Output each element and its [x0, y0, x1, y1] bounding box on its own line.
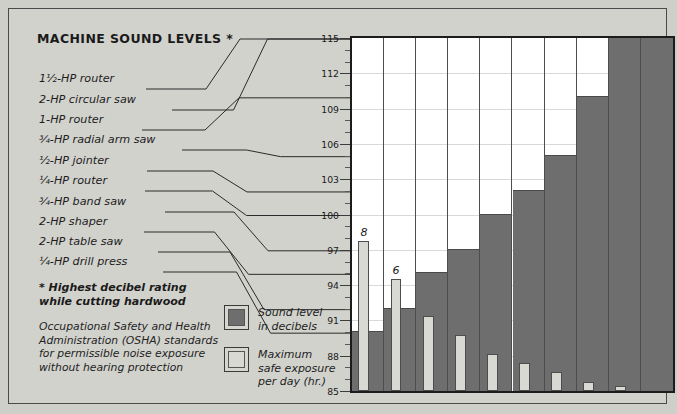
machine-label: ¼-HP drill press — [39, 255, 127, 268]
machine-label: 1-HP router — [39, 113, 103, 126]
y-tick-label: 91 — [327, 315, 339, 326]
plot-area: 864321½1½¼ — [350, 36, 675, 393]
machine-label: ½-HP jointer — [39, 154, 109, 167]
y-tick-label: 97 — [327, 244, 339, 255]
decibel-bar[interactable] — [577, 96, 608, 391]
decibel-bar[interactable] — [609, 37, 640, 391]
bar-group[interactable] — [352, 38, 384, 391]
decibel-bar[interactable] — [641, 37, 673, 391]
y-tick-label: 94 — [327, 280, 339, 291]
osha-note: Occupational Safety and Health Administr… — [39, 320, 225, 374]
footnote-text: * Highest decibel rating while cutting h… — [39, 281, 219, 309]
chart-page: MACHINE SOUND LEVELS * 1½-HP router2-HP … — [0, 0, 677, 414]
page-title: MACHINE SOUND LEVELS * — [37, 31, 233, 46]
machine-label: 2-HP circular saw — [39, 93, 136, 106]
y-tick-label: 112 — [321, 68, 339, 79]
exposure-bar[interactable] — [391, 279, 402, 392]
legend-swatch-safe-exposure — [224, 347, 249, 372]
bar-group[interactable] — [384, 38, 416, 391]
y-tick-label: 106 — [321, 138, 339, 149]
machine-label: ¼-HP router — [39, 174, 107, 187]
bar-group[interactable] — [416, 38, 448, 391]
bar-group[interactable] — [641, 38, 673, 391]
exposure-bar[interactable] — [551, 372, 562, 391]
chart-frame: MACHINE SOUND LEVELS * 1½-HP router2-HP … — [8, 8, 667, 404]
bar-group[interactable] — [545, 38, 577, 391]
y-tick-label: 85 — [327, 386, 339, 397]
y-tick-label: 88 — [327, 350, 339, 361]
bar-group[interactable] — [609, 38, 641, 391]
exposure-bar[interactable] — [519, 363, 530, 391]
machine-label: ¾-HP radial arm saw — [39, 133, 156, 146]
decibel-bar[interactable] — [545, 155, 576, 391]
exposure-bar[interactable] — [487, 354, 498, 392]
machine-label: 2-HP table saw — [39, 235, 123, 248]
y-axis: 8588919497100103106109112115 — [305, 29, 351, 409]
bar-group[interactable] — [577, 38, 609, 391]
y-tick-label: 115 — [321, 33, 339, 44]
y-tick-label: 103 — [321, 174, 339, 185]
bar-group[interactable] — [480, 38, 512, 391]
machine-label: 1½-HP router — [39, 72, 114, 85]
machine-label: ¾-HP band saw — [39, 195, 126, 208]
y-tick-label: 109 — [321, 103, 339, 114]
exposure-bar[interactable] — [583, 382, 594, 391]
bar-group[interactable] — [448, 38, 480, 391]
legend-swatch-sound-level — [224, 305, 249, 330]
y-tick-label: 100 — [321, 209, 339, 220]
bar-group[interactable] — [513, 38, 545, 391]
exposure-bar[interactable] — [615, 386, 626, 391]
exposure-bar[interactable] — [423, 316, 434, 391]
exposure-bar[interactable] — [358, 241, 369, 391]
decibel-bar[interactable] — [513, 190, 544, 391]
exposure-bar[interactable] — [455, 335, 466, 391]
machine-label: 2-HP shaper — [39, 215, 107, 228]
